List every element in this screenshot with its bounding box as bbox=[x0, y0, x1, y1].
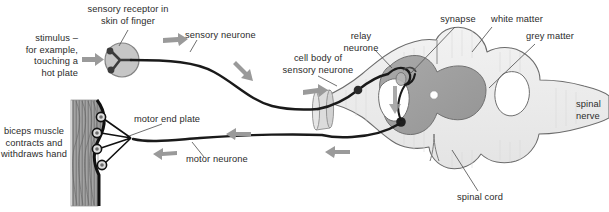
reflex-arc-diagram: stimulus – for example, touching a hot p… bbox=[0, 0, 609, 212]
arrow-motor-mid bbox=[226, 128, 251, 140]
leader-cell-body bbox=[318, 76, 337, 86]
arrow-motor-to-muscle bbox=[153, 148, 177, 160]
leader-sensory-neurone bbox=[190, 40, 197, 52]
central-canal bbox=[430, 91, 438, 99]
motor-neurone-axon bbox=[133, 124, 399, 141]
label-motor-neurone: motor neurone bbox=[186, 154, 282, 166]
label-motor-end-plate: motor end plate bbox=[134, 114, 238, 126]
arrow-stimulus-to-receptor bbox=[82, 53, 104, 66]
arrow-motor-out bbox=[325, 146, 350, 158]
label-sensory-receptor: sensory receptor in skin of finger bbox=[62, 4, 194, 27]
label-relay-neurone: relay neurone bbox=[330, 31, 392, 54]
arrow-sensory-descending bbox=[233, 61, 253, 81]
label-white-matter: white matter bbox=[477, 14, 557, 26]
label-spinal-cord: spinal cord bbox=[441, 192, 519, 204]
leader-motor-end-plate bbox=[129, 124, 162, 136]
label-stimulus: stimulus – for example, touching a hot p… bbox=[2, 33, 78, 79]
label-spinal-nerve: spinal nerve bbox=[576, 99, 609, 122]
cell-body-sensory-neurone bbox=[354, 86, 363, 95]
label-biceps-muscle: biceps muscle contracts and withdraws ha… bbox=[0, 126, 72, 161]
label-sensory-neurone: sensory neurone bbox=[185, 30, 295, 42]
label-grey-matter: grey matter bbox=[512, 31, 588, 43]
label-cell-body-sensory-neurone: cell body of sensory neurone bbox=[264, 53, 372, 76]
right-white-gap bbox=[495, 72, 530, 116]
